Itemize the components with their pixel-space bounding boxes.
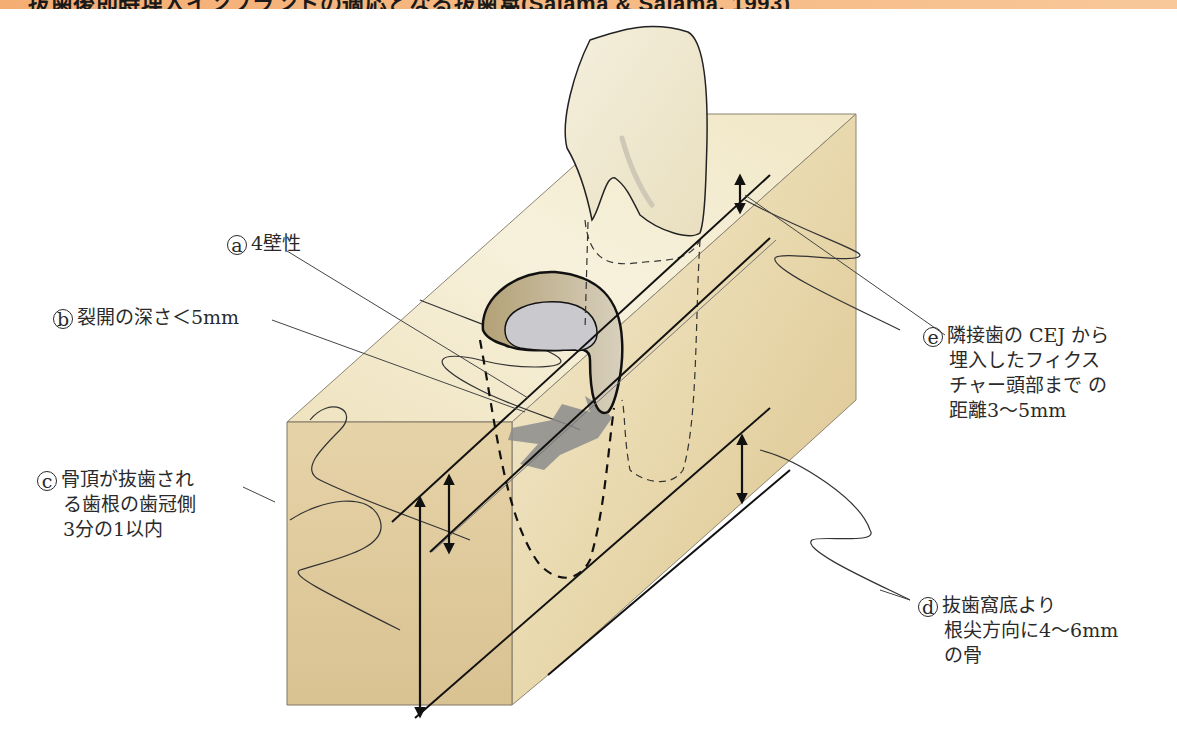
label-c: c骨頂が抜歯され る歯根の歯冠側 3分の1以内	[37, 467, 196, 542]
label-e: e隣接歯の CEJ から 埋入したフィクス チャー頭部まで の 距離3～5mm	[923, 323, 1109, 423]
marker-c: c	[37, 471, 57, 491]
marker-d: d	[918, 597, 938, 617]
label-b: b裂開の深さ＜5mm	[53, 305, 239, 330]
leader-d	[880, 590, 910, 600]
marker-a: a	[227, 235, 247, 255]
label-d: d抜歯窩底より 根尖方向に4～6mm の骨	[918, 593, 1118, 668]
marker-b: b	[53, 309, 73, 329]
label-a: a4壁性	[227, 231, 301, 256]
leader-c	[243, 487, 275, 502]
marker-e: e	[923, 327, 943, 347]
